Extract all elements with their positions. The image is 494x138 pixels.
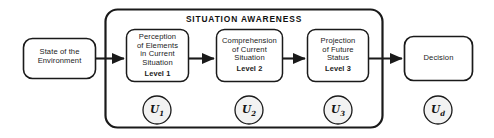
node-label-projection: Projection of Future Status Level 3 bbox=[307, 37, 369, 73]
level-label-1: Level 1 bbox=[126, 70, 189, 78]
diagram-canvas: SITUATION AWARENESS State of the Environ… bbox=[0, 0, 494, 138]
level-label-2: Level 2 bbox=[215, 65, 284, 73]
node-label-state-of-environment: State of the Environment bbox=[23, 48, 96, 65]
situation-awareness-title: SITUATION AWARENESS bbox=[105, 14, 383, 24]
utility-label-u3: U3 bbox=[324, 103, 352, 118]
node-label-comprehension: Comprehension of Current Situation Level… bbox=[215, 37, 284, 73]
utility-label-u1: U1 bbox=[143, 103, 171, 118]
level-label-3: Level 3 bbox=[307, 65, 369, 73]
utility-label-u2: U2 bbox=[235, 103, 263, 118]
utility-label-ud: Ud bbox=[424, 103, 452, 118]
node-label-decision: Decision bbox=[404, 54, 473, 63]
node-label-perception: Perception of Elements in Current Situat… bbox=[126, 33, 189, 78]
